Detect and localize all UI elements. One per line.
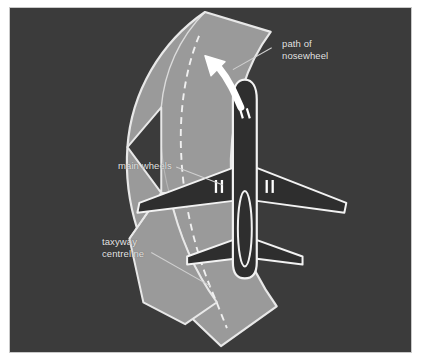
diagram-canvas	[10, 8, 411, 352]
figure-root: path of nosewheel main wheels taxyway ce…	[0, 0, 421, 364]
diagram-panel: path of nosewheel main wheels taxyway ce…	[9, 7, 412, 353]
aircraft-vertical-fin	[238, 191, 252, 267]
